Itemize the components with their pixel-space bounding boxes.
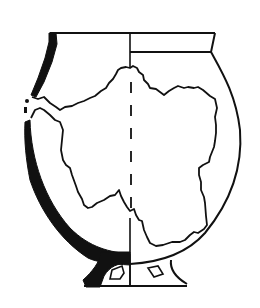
- left-wall-section-upper: [31, 33, 57, 97]
- foot-perforation-left: [110, 266, 124, 279]
- vessel-drawing: [0, 0, 260, 308]
- wall-fragment-dot: [25, 99, 29, 103]
- right-profile: [130, 33, 240, 264]
- vessel-svg: [0, 0, 260, 308]
- wall-fragment-dash: [24, 107, 27, 113]
- right-foot-profile: [171, 260, 187, 284]
- foot-perforation-right: [148, 266, 163, 277]
